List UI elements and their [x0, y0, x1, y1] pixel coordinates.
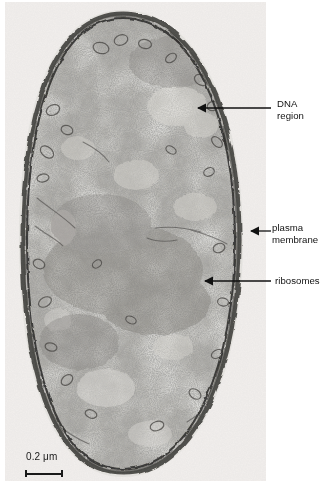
scale-bar: 0.2 μm	[24, 451, 110, 481]
annotation-label-plasma-membrane: plasma membrane	[272, 222, 318, 245]
illumination-overlay	[5, 2, 266, 481]
scale-bar-line	[25, 473, 63, 475]
scale-bar-cap-right	[61, 470, 63, 477]
annotation-label-dna-region: DNA region	[277, 98, 304, 121]
annotation-label-ribosomes: ribosomes	[275, 275, 320, 287]
electron-micrograph-figure: 0.2 μm DNA region plasma membrane riboso…	[0, 0, 336, 488]
scale-bar-label: 0.2 μm	[26, 451, 57, 462]
micrograph-image	[5, 2, 266, 481]
scale-bar-rule	[25, 470, 63, 477]
micrograph-panel: 0.2 μm	[5, 2, 266, 481]
